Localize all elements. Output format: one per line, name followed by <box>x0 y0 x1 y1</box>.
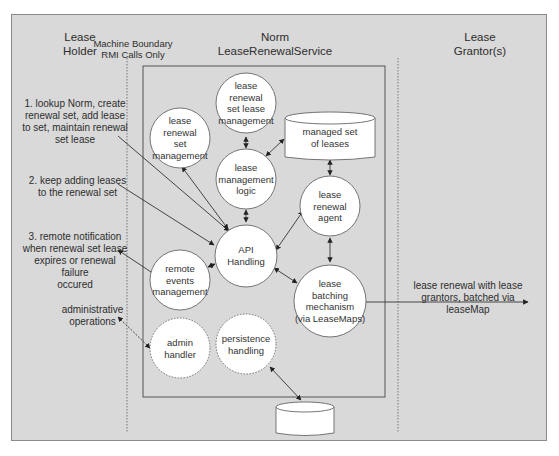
node-line: management <box>214 174 278 186</box>
label-renewal-set-management: lease renewal set management <box>148 115 212 161</box>
node-line: managed set <box>290 126 370 138</box>
node-line: agent <box>298 212 362 224</box>
label-api-handling: API Handling <box>214 244 278 267</box>
annotation-line: expires or renewal failure <box>20 255 130 279</box>
node-line: management <box>214 115 278 127</box>
node-line: of leases <box>290 138 370 150</box>
node-line: handler <box>148 349 212 361</box>
label-lease-management-logic: lease management logic <box>214 162 278 197</box>
label-renewal-set-lease-management: lease renewal set lease management <box>214 80 278 126</box>
label-managed-set-of-leases: managed set of leases <box>290 126 370 149</box>
label-lease-batching-mechanism: lease batching mechanism (via LeaseMaps) <box>292 278 368 324</box>
node-line: handling <box>212 345 280 357</box>
title-line: LeaseRenewalService <box>200 44 350 58</box>
node-line: management <box>148 150 212 162</box>
node-line: lease <box>292 278 368 290</box>
storage-cylinder-icon <box>276 402 334 436</box>
node-line: lease <box>298 189 362 201</box>
node-line: Handling <box>214 256 278 268</box>
node-line: lease <box>148 115 212 127</box>
norm-service-title: Norm LeaseRenewalService <box>200 30 350 58</box>
title-line: Grantor(s) <box>430 44 530 58</box>
machine-boundary-label: Machine Boundary RMI Calls Only <box>88 38 178 60</box>
node-line: API <box>214 244 278 256</box>
node-line: mechanism <box>292 301 368 313</box>
node-line: events <box>148 275 212 287</box>
label-persistence-handling: persistence handling <box>212 333 280 356</box>
title-line: Lease <box>430 30 530 44</box>
label-lease-renewal-agent: lease renewal agent <box>298 189 362 224</box>
label-remote-events-management: remote events management <box>148 263 212 298</box>
annotation-line: grantors, batched via leaseMap <box>403 292 533 316</box>
node-line: set lease <box>214 103 278 115</box>
lease-grantors-title: Lease Grantor(s) <box>430 30 530 58</box>
annotation-line: lease renewal with lease <box>403 280 533 292</box>
annotation-line: renewal set, add lease <box>20 110 130 122</box>
annotation-line: 3. remote notification <box>20 231 130 243</box>
annotation-line: to the renewal set <box>25 187 130 199</box>
label-line: RMI Calls Only <box>88 49 178 60</box>
node-line: remote <box>148 263 212 275</box>
annotation-line: when renewal set lease <box>20 243 130 255</box>
node-line: admin <box>148 337 212 349</box>
annotation-step-3: 3. remote notification when renewal set … <box>20 231 130 291</box>
node-line: renewal <box>214 92 278 104</box>
annotation-line: 2. keep adding leases <box>25 175 130 187</box>
annotation-line: administrative <box>55 304 130 316</box>
node-line: lease <box>214 80 278 92</box>
annotation-line: 1. lookup Norm, create <box>20 98 130 110</box>
label-admin-handler: admin handler <box>148 337 212 360</box>
title-line: Norm <box>200 30 350 44</box>
annotation-admin-operations: administrative operations <box>55 304 130 328</box>
node-line: lease <box>214 162 278 174</box>
node-line: management <box>148 286 212 298</box>
annotation-step-2: 2. keep adding leases to the renewal set <box>25 175 130 199</box>
node-line: (via LeaseMaps) <box>292 313 368 325</box>
node-line: batching <box>292 290 368 302</box>
node-line: renewal <box>148 127 212 139</box>
annotation-line: operations <box>55 316 130 328</box>
annotation-line: set lease <box>20 134 130 146</box>
label-line: Machine Boundary <box>88 38 178 49</box>
annotation-batch-out: lease renewal with lease grantors, batch… <box>403 280 533 316</box>
node-line: set <box>148 138 212 150</box>
node-line: renewal <box>298 201 362 213</box>
node-line: logic <box>214 185 278 197</box>
annotation-step-1: 1. lookup Norm, create renewal set, add … <box>20 98 130 146</box>
annotation-line: to set, maintain renewal <box>20 122 130 134</box>
diagram-canvas <box>0 0 559 456</box>
node-line: persistence <box>212 333 280 345</box>
annotation-line: occured <box>20 279 130 291</box>
